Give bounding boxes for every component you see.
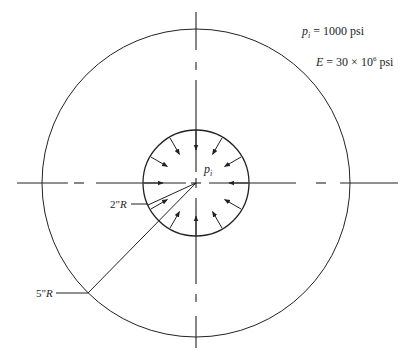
pressure-arrow-icon (213, 212, 223, 228)
pressure-arrow-icon (225, 200, 241, 210)
pressure-arrow-icon (170, 212, 180, 228)
pressure-arrow-icon (225, 157, 241, 167)
outer-radius-line (88, 183, 196, 293)
pressure-arrow-icon (151, 157, 167, 167)
pressure-label: pi (203, 162, 212, 178)
inner-radius-line (148, 183, 196, 205)
cylinder-diagram: pi 2"R 5"R pi = 1000 psi E = 30 × 106 ps… (0, 0, 410, 358)
given-pressure: pi = 1000 psi (301, 24, 365, 40)
outer-radius-label: 5"R (36, 287, 53, 299)
pressure-arrow-icon (213, 138, 223, 154)
pressure-arrow-icon (151, 200, 167, 210)
pressure-arrow-icon (170, 138, 180, 154)
given-modulus: E = 30 × 106 psi (315, 55, 394, 69)
inner-radius-label: 2"R (110, 198, 127, 210)
